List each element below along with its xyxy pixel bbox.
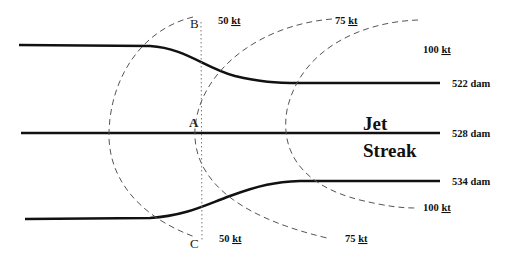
point-a-label: A — [189, 115, 199, 130]
svg-text:75 kt: 75 kt — [335, 15, 358, 26]
isotach-label-75kt-bottom: 75 kt — [345, 233, 368, 244]
contour-522-line — [19, 45, 440, 83]
isotach-label-75kt-top: 75 kt — [335, 15, 358, 26]
svg-text:100 kt: 100 kt — [423, 44, 451, 55]
svg-text:50 kt: 50 kt — [219, 233, 242, 244]
jet-streak-diagram: B A C 50 kt 75 kt 100 kt 50 kt 75 kt 100… — [0, 0, 511, 263]
isotach-label-50kt-bottom: 50 kt — [219, 233, 242, 244]
point-b-label: B — [190, 16, 199, 31]
point-c-label: C — [190, 236, 199, 251]
isotach-75kt — [195, 19, 332, 238]
jet-label-line1: Jet — [363, 113, 388, 134]
isotach-label-50kt-top: 50 kt — [218, 15, 241, 26]
jet-label-line2: Streak — [363, 140, 417, 161]
svg-text:50 kt: 50 kt — [218, 15, 241, 26]
svg-text:100 kt: 100 kt — [423, 202, 451, 213]
contour-522-label: 522 dam — [452, 78, 490, 89]
isotach-label-100kt-bottom: 100 kt — [423, 202, 451, 213]
contour-528-label: 528 dam — [452, 128, 490, 139]
isotach-label-100kt-top: 100 kt — [423, 44, 451, 55]
isotach-50kt — [109, 17, 195, 237]
svg-text:75 kt: 75 kt — [345, 233, 368, 244]
contour-534-line — [25, 181, 440, 219]
contour-534-label: 534 dam — [452, 176, 490, 187]
